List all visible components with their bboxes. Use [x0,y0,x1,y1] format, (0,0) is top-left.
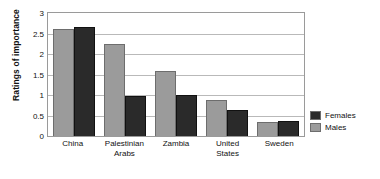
y-axis-tick-label: 2 [40,50,44,59]
y-axis-tick-label: 0.5 [33,111,44,120]
y-axis-tick-label: 2.5 [33,29,44,38]
bar [176,95,197,136]
legend-item: Males [310,123,356,132]
x-axis-label-line: Palestinian [99,139,151,149]
x-axis-category-label: PalestinianArabs [99,139,151,159]
legend-swatch [310,123,321,132]
bar [227,110,248,136]
x-axis-category-label: China [47,139,99,159]
bar-group [150,13,201,136]
y-axis-tick-label: 3 [40,9,44,18]
y-axis-tick-label: 0 [40,132,44,141]
bar [278,121,299,136]
y-axis-tick-label: 1.5 [33,70,44,79]
y-axis-tick-labels: 32.521.510.50 [22,12,44,137]
bar [206,100,227,136]
bar-group [99,13,150,136]
bar [53,29,74,136]
legend-item: Females [310,111,356,120]
legend-label: Males [325,123,346,132]
x-axis-category-label: Zambia [150,139,202,159]
x-axis-label-line: Sweden [253,139,305,149]
bar [74,27,95,136]
x-axis-category-label: Sweden [253,139,305,159]
bar-group [253,13,304,136]
x-axis-category-labels: ChinaPalestinianArabsZambiaUnitedStatesS… [47,139,305,159]
bar [155,71,176,136]
x-axis-label-line: China [47,139,99,149]
bar-chart: Ratings of importance 32.521.510.50 Chin… [0,0,380,179]
y-axis-title: Ratings of importance [11,0,21,115]
bar [257,122,278,136]
bar-group [202,13,253,136]
x-axis-label-line: Arabs [99,149,151,159]
x-axis-category-label: UnitedStates [202,139,254,159]
bar [125,96,146,136]
x-axis-label-line: States [202,149,254,159]
x-axis-label-line: United [202,139,254,149]
y-axis-tick-label: 1 [40,91,44,100]
x-axis-label-line: Zambia [150,139,202,149]
legend: FemalesMales [310,111,356,132]
bar-group [48,13,99,136]
legend-label: Females [325,111,356,120]
legend-swatch [310,111,321,120]
bar-groups [48,13,304,136]
plot-area [47,12,305,137]
bar [104,44,125,136]
